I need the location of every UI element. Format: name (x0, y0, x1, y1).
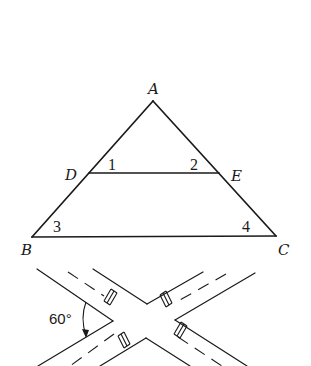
angle-label-2: 2 (190, 156, 198, 173)
geometry-figures: A B C D E 1 2 3 4 (0, 0, 311, 366)
road-edge (147, 272, 203, 304)
center-dashed-line (180, 274, 226, 300)
road-edge (175, 320, 247, 366)
vertex-label-a: A (146, 80, 159, 98)
vertex-label-d: D (64, 166, 77, 184)
angle-label-60: 60° (49, 310, 72, 327)
intersection-figure: 60° (37, 269, 255, 366)
vertex-label-c: C (278, 241, 290, 259)
crosswalk-lower-right (174, 322, 187, 338)
road-edge (146, 338, 190, 366)
road-edge (100, 338, 146, 366)
side-ac (153, 101, 276, 236)
crosswalk-lower-left (118, 332, 130, 348)
crosswalk-upper-left (104, 289, 117, 305)
side-ab (32, 101, 153, 237)
angle-label-1: 1 (108, 156, 116, 173)
vertex-label-e: E (230, 167, 242, 185)
center-dashed-line (178, 337, 222, 366)
road-edge (93, 269, 147, 304)
vertex-label-b: B (20, 241, 32, 259)
triangle-figure: A B C D E 1 2 3 4 (20, 80, 290, 259)
side-bc (32, 236, 276, 237)
road-edge (38, 321, 113, 366)
angle-label-4: 4 (242, 218, 250, 235)
center-dashed-line (68, 272, 104, 296)
angle-label-3: 3 (53, 218, 61, 235)
